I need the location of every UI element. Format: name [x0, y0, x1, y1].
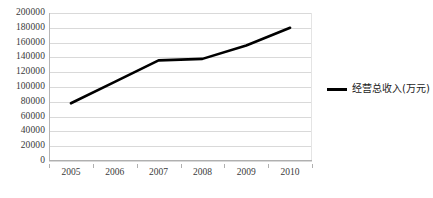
x-axis-tick-mark — [93, 164, 94, 168]
x-axis-tick-label: 2009 — [237, 168, 256, 178]
legend-label-total-operating-revenue: 经营总收入(万元) — [352, 84, 430, 94]
x-axis-tick-label: 2007 — [149, 168, 168, 178]
x-axis-tick-mark — [224, 164, 225, 168]
x-axis-tick-label: 2005 — [61, 168, 80, 178]
y-axis-tick-label: 0 — [0, 156, 45, 166]
x-axis-tick-label: 2010 — [281, 168, 300, 178]
x-axis-tick-mark — [137, 164, 138, 168]
legend-line-swatch — [327, 88, 347, 91]
chart-legend: 经营总收入(万元) — [327, 84, 430, 94]
y-axis-tick-label: 80000 — [0, 97, 45, 107]
y-axis-tick-label: 160000 — [0, 38, 45, 48]
x-axis-tick-labels: 200520062007200820092010 — [49, 168, 312, 184]
series-line-total-operating-revenue — [49, 13, 312, 161]
y-axis-tick-label: 40000 — [0, 127, 45, 137]
y-axis-tick-labels: 0200004000060000800001000001200001400001… — [0, 13, 45, 161]
y-axis-tick-label: 100000 — [0, 82, 45, 92]
gridline — [49, 161, 312, 162]
y-axis-tick-label: 20000 — [0, 141, 45, 151]
y-axis-tick-label: 200000 — [0, 8, 45, 18]
x-axis-tick-mark — [312, 164, 313, 168]
x-axis-tick-mark — [181, 164, 182, 168]
x-axis-tick-label: 2006 — [105, 168, 124, 178]
y-axis-tick-label: 120000 — [0, 67, 45, 77]
y-axis-tick-label: 60000 — [0, 112, 45, 122]
y-axis-tick-label: 180000 — [0, 23, 45, 33]
x-axis-tick-mark — [268, 164, 269, 168]
x-axis-tick-mark — [49, 164, 50, 168]
y-axis-tick-label: 140000 — [0, 53, 45, 63]
plot-area — [49, 13, 312, 161]
line-chart: 0200004000060000800001000001200001400001… — [0, 0, 433, 198]
x-axis-tick-label: 2008 — [193, 168, 212, 178]
